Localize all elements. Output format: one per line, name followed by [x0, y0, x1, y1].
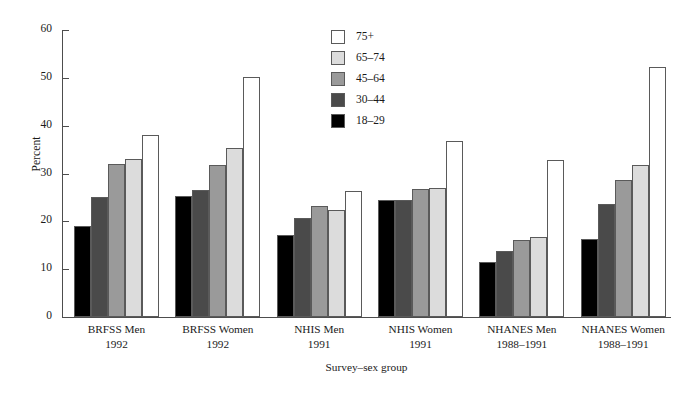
bar-chart: Percent 0102030405060 BRFSS Men1992BRFSS…	[0, 0, 676, 398]
y-tick-label: 10	[14, 262, 52, 274]
bar-group	[74, 30, 159, 317]
bar	[311, 206, 328, 317]
x-group-label-line1: NHANES Men	[487, 323, 556, 335]
legend-swatch	[331, 93, 345, 107]
bar	[108, 164, 125, 317]
legend-item: 65–74	[331, 47, 385, 68]
legend-label: 65–74	[356, 52, 385, 64]
y-tick-label: 0	[14, 310, 52, 322]
legend-swatch	[331, 72, 345, 86]
bar	[328, 210, 345, 317]
bar	[192, 190, 209, 317]
legend-label: 45–64	[356, 73, 385, 85]
bar	[209, 165, 226, 317]
x-group-label-line1: NHANES Women	[582, 323, 665, 335]
bar	[142, 135, 159, 317]
x-group-label-line1: NHIS Women	[389, 323, 453, 335]
legend-item: 30–44	[331, 89, 385, 110]
bar	[530, 237, 547, 317]
legend-label: 75+	[356, 31, 374, 43]
x-group-label-line1: NHIS Men	[294, 323, 344, 335]
y-axis-title: Percent	[30, 94, 42, 214]
bar	[91, 197, 108, 317]
legend: 75+65–7445–6430–4418–29	[331, 26, 385, 131]
bar-group	[378, 30, 463, 317]
x-axis-line	[62, 317, 671, 318]
y-tick-label: 50	[14, 71, 52, 83]
legend-label: 18–29	[356, 115, 385, 127]
bar	[632, 165, 649, 317]
legend-item: 75+	[331, 26, 385, 47]
y-tick-label: 60	[14, 23, 52, 35]
x-group-label: NHANES Women1988–1991	[563, 322, 676, 352]
bar-group	[581, 30, 666, 317]
legend-label: 30–44	[356, 94, 385, 106]
bar	[479, 262, 496, 317]
bar	[175, 196, 192, 317]
y-tick-label: 20	[14, 214, 52, 226]
bar	[581, 239, 598, 317]
bar	[226, 148, 243, 317]
bar	[496, 251, 513, 317]
bar	[74, 226, 91, 317]
bar	[598, 204, 615, 317]
y-tick-label: 30	[14, 167, 52, 179]
legend-item: 18–29	[331, 110, 385, 131]
x-group-label-line1: BRFSS Women	[182, 323, 253, 335]
bar	[649, 67, 666, 317]
bar	[615, 180, 632, 317]
bar-group	[175, 30, 260, 317]
x-group-label-line1: BRFSS Men	[88, 323, 145, 335]
bar	[125, 159, 142, 317]
bar	[446, 141, 463, 318]
x-group-label-line2: 1988–1991	[563, 337, 676, 352]
legend-swatch	[331, 51, 345, 65]
legend-swatch	[331, 30, 345, 44]
legend-item: 45–64	[331, 68, 385, 89]
bar	[513, 240, 530, 317]
legend-swatch	[331, 114, 345, 128]
bar	[345, 191, 362, 317]
bar-group	[479, 30, 564, 317]
bar	[429, 188, 446, 317]
bar	[243, 77, 260, 317]
bar	[294, 218, 311, 317]
bar	[277, 235, 294, 317]
bar	[412, 189, 429, 317]
bar	[395, 200, 412, 317]
bar	[378, 200, 395, 317]
bar	[547, 160, 564, 317]
y-tick-label: 40	[14, 119, 52, 131]
x-axis-title: Survey–sex group	[62, 361, 671, 373]
